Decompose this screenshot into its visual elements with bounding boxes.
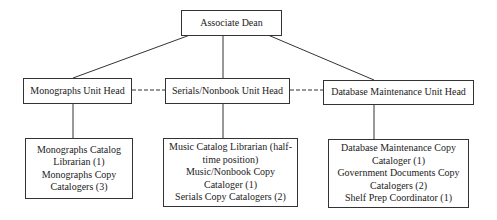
staff-item: Music/Nonbook Copy Cataloger (1) xyxy=(169,166,292,191)
monographs-head-label: Monographs Unit Head xyxy=(30,85,124,98)
database-head-label: Database Maintenance Unit Head xyxy=(331,86,466,99)
associate-dean-box: Associate Dean xyxy=(181,10,282,36)
database-staff-box: Database Maintenance Copy Cataloger (1) … xyxy=(328,139,469,208)
staff-item: Monographs Copy Catalogers (3) xyxy=(32,169,126,194)
monographs-staff-box: Monographs Catalog Librarian (1) Monogra… xyxy=(25,138,133,199)
monographs-head-box: Monographs Unit Head xyxy=(23,78,132,104)
staff-item: Music Catalog Librarian (half-time posit… xyxy=(169,141,292,166)
database-head-box: Database Maintenance Unit Head xyxy=(323,80,474,105)
staff-item: Shelf Prep Coordinator (1) xyxy=(335,192,462,205)
staff-item: Database Maintenance Copy Cataloger (1) xyxy=(335,142,462,167)
serials-head-box: Serials/Nonbook Unit Head xyxy=(165,78,290,104)
serials-head-label: Serials/Nonbook Unit Head xyxy=(172,85,283,98)
associate-dean-label: Associate Dean xyxy=(200,17,262,30)
staff-item: Serials Copy Catalogers (2) xyxy=(169,191,292,204)
serials-staff-box: Music Catalog Librarian (half-time posit… xyxy=(163,138,298,207)
staff-item: Government Documents Copy Catalogers (2) xyxy=(335,167,462,192)
staff-item: Monographs Catalog Librarian (1) xyxy=(32,144,126,169)
